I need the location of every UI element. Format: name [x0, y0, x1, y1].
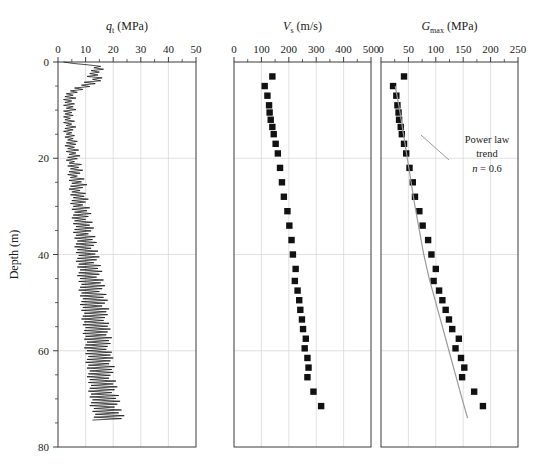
y-tick-label: 20 [38, 152, 50, 164]
data-point-marker [294, 287, 300, 293]
data-point-marker [433, 266, 439, 272]
x-tick-label: 200 [482, 43, 499, 55]
data-point-marker [310, 388, 316, 394]
data-point-marker [268, 117, 274, 123]
panel-3-axis-title: Gmax (MPa) [421, 19, 477, 35]
data-point-marker [471, 388, 477, 394]
data-point-marker [458, 355, 464, 361]
y-tick-label: 0 [44, 56, 50, 68]
data-point-marker [279, 179, 285, 185]
panel-3: 050100150200250Gmax (MPa)Power lawtrendn… [378, 19, 527, 447]
data-point-marker [461, 364, 467, 370]
data-point-marker [303, 336, 309, 342]
y-tick-label: 80 [38, 441, 50, 453]
x-tick-label: 50 [191, 43, 203, 55]
cpt-vs-gmax-depth-profile-chart: 01020304050qt (MPa)0100200300400500Vs (m… [0, 0, 541, 467]
data-point-marker [297, 307, 303, 313]
depth-axis: 020406080Depth (m) [7, 56, 58, 453]
data-point-marker [299, 316, 305, 322]
data-point-marker [292, 266, 298, 272]
panel-2: 0100200300400500Vs (m/s) [231, 19, 380, 447]
annotation-leader-line [421, 135, 449, 160]
data-point-marker [480, 403, 486, 409]
x-tick-label: 100 [428, 43, 445, 55]
data-point-marker [264, 92, 270, 98]
figure-container: 01020304050qt (MPa)0100200300400500Vs (m… [0, 0, 541, 467]
annotation-line-1: Power law [465, 134, 510, 145]
axis-title-units: (MPa) [444, 19, 478, 33]
data-point-marker [292, 278, 298, 284]
data-point-marker [425, 237, 431, 243]
data-point-marker [296, 297, 302, 303]
depth-axis-label: Depth (m) [7, 230, 21, 280]
data-point-marker [277, 165, 283, 171]
annotation-exponent-value: = 0.6 [477, 163, 501, 174]
data-point-marker [275, 150, 281, 156]
annotation-line-2: trend [476, 148, 498, 159]
axis-title-subscript: max [430, 26, 444, 35]
x-tick-label: 30 [135, 43, 147, 55]
axis-title-units: (m/s) [294, 19, 322, 33]
data-point-marker [439, 297, 445, 303]
panel-1-axis-title: qt (MPa) [106, 19, 148, 35]
panel-1: 01020304050qt (MPa) [55, 19, 202, 447]
x-tick-label: 0 [378, 43, 384, 55]
data-point-marker [401, 73, 407, 79]
data-point-marker [300, 326, 306, 332]
x-tick-label: 100 [253, 43, 270, 55]
data-point-marker [436, 287, 442, 293]
data-point-marker [459, 374, 465, 380]
data-point-marker [449, 326, 455, 332]
data-point-marker [428, 251, 434, 257]
data-point-marker [401, 141, 407, 147]
annotation-exponent: n = 0.6 [472, 163, 502, 174]
x-tick-label: 500 [363, 43, 380, 55]
data-point-marker [419, 222, 425, 228]
qt-profile-trace [64, 62, 125, 420]
data-point-marker [266, 102, 272, 108]
data-point-marker [452, 345, 458, 351]
data-point-marker [286, 222, 292, 228]
data-point-marker [304, 355, 310, 361]
data-point-marker [456, 336, 462, 342]
data-point-marker [442, 307, 448, 313]
data-point-marker [269, 73, 275, 79]
y-tick-label: 40 [38, 249, 50, 261]
data-point-marker [284, 208, 290, 214]
x-tick-label: 20 [108, 43, 120, 55]
data-point-marker [271, 131, 277, 137]
x-tick-label: 250 [510, 43, 527, 55]
axis-title-symbol: G [421, 19, 430, 33]
data-point-marker [301, 345, 307, 351]
data-point-marker [281, 194, 287, 200]
panel-2-axis-title: Vs (m/s) [283, 19, 322, 35]
x-tick-label: 0 [231, 43, 237, 55]
data-point-marker [288, 237, 294, 243]
data-point-marker [290, 251, 296, 257]
data-point-marker [318, 403, 324, 409]
data-point-marker [446, 316, 452, 322]
axis-title-units: (MPa) [114, 19, 148, 33]
y-tick-label: 60 [38, 345, 50, 357]
x-tick-label: 50 [403, 43, 415, 55]
x-tick-label: 0 [55, 43, 61, 55]
data-point-marker [272, 141, 278, 147]
data-point-marker [261, 83, 267, 89]
data-point-marker [305, 364, 311, 370]
data-point-marker [269, 124, 275, 130]
x-tick-label: 150 [455, 43, 472, 55]
data-point-marker [430, 278, 436, 284]
x-tick-label: 10 [80, 43, 92, 55]
x-tick-label: 400 [335, 43, 352, 55]
data-point-marker [304, 374, 310, 380]
data-point-marker [416, 208, 422, 214]
data-point-marker [266, 109, 272, 115]
x-tick-label: 300 [308, 43, 325, 55]
x-tick-label: 200 [281, 43, 298, 55]
x-tick-label: 40 [163, 43, 175, 55]
